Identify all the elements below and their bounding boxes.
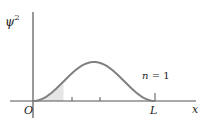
y-axis-label: ψ2 (5, 14, 20, 28)
probability-density-chart (0, 0, 209, 121)
y-axis-label-exponent: 2 (14, 13, 19, 22)
quantum-number-annotation: n = 1 (142, 71, 170, 81)
origin-label: O (24, 105, 33, 116)
L-label: L (150, 105, 157, 116)
shaded-probability-region (33, 82, 64, 102)
annotation-value: = 1 (152, 70, 170, 81)
y-axis-label-base: ψ (5, 15, 14, 29)
x-axis-label: x (192, 104, 198, 115)
annotation-variable: n (142, 70, 148, 81)
